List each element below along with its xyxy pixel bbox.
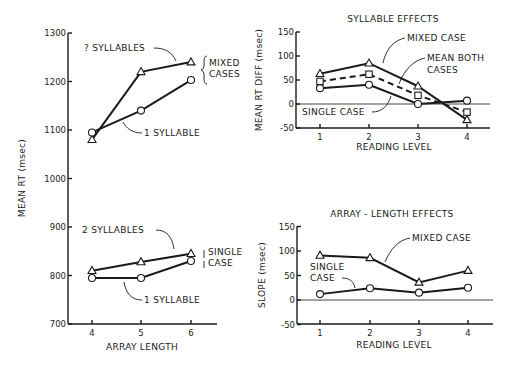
left-x-ticks: 456 xyxy=(89,320,193,338)
square-marker xyxy=(366,71,372,77)
label-mixed-cases-1: MIXED xyxy=(209,58,240,68)
triangle-marker xyxy=(463,116,471,123)
y-tick-label: 1000 xyxy=(44,174,66,184)
circle-marker xyxy=(317,85,324,92)
label-br-single-case-1: SINGLE xyxy=(310,262,345,272)
x-tick-label: 1 xyxy=(317,132,322,142)
x-tick-label: 4 xyxy=(89,328,94,338)
y-tick-label: -50 xyxy=(280,123,294,133)
series-2-syllables xyxy=(88,249,195,273)
y-tick-label: 50 xyxy=(283,75,294,85)
x-tick-label: 4 xyxy=(465,328,470,338)
y-tick-label: 100 xyxy=(278,51,294,61)
circle-marker xyxy=(464,97,471,104)
syllable-effects-chart: SYLLABLE EFFECTS -50050100150 1234 MEAN … xyxy=(254,14,490,152)
series-single-case xyxy=(317,284,472,297)
br-x-ticks: 1234 xyxy=(317,320,470,338)
tr-x-axis-label: READING LEVEL xyxy=(356,142,432,152)
circle-marker xyxy=(366,81,373,88)
label-single-1-syllable: 1 SYLLABLE xyxy=(144,295,200,305)
label-br-single-case-2: CASE xyxy=(310,273,335,283)
y-tick-label: 50 xyxy=(284,271,295,281)
x-tick-label: 5 xyxy=(138,328,143,338)
label-br-mixed-case: MIXED CASE xyxy=(412,233,471,243)
circle-marker xyxy=(415,101,422,108)
circle-marker xyxy=(367,285,374,292)
series-line xyxy=(320,288,468,294)
y-tick-label: 700 xyxy=(50,319,66,329)
triangle-marker xyxy=(187,58,195,65)
figure: 7008009001000110012001300 456 MEAN RT (m… xyxy=(0,0,513,365)
circle-marker xyxy=(188,77,195,84)
leader-br-mixed-case xyxy=(385,238,410,262)
square-marker xyxy=(317,78,323,84)
x-tick-label: 3 xyxy=(415,132,420,142)
series-line xyxy=(320,85,467,104)
x-tick-label: 4 xyxy=(464,132,469,142)
leader-br-single-case xyxy=(342,278,355,288)
label-single-case-1: SINGLE xyxy=(208,247,243,257)
leader-single-2-syllables xyxy=(156,230,174,249)
label-single-2-syllables: 2 SYLLABLES xyxy=(82,225,144,235)
syllable-effects-title: SYLLABLE EFFECTS xyxy=(347,14,438,24)
br-x-axis-label: READING LEVEL xyxy=(356,340,432,350)
brace-mixed-cases xyxy=(201,56,207,84)
triangle-marker xyxy=(365,59,373,66)
label-tr-mean-both-1: MEAN BOTH xyxy=(427,53,484,63)
y-tick-label: 0 xyxy=(290,295,295,305)
y-tick-label: 1200 xyxy=(44,77,66,87)
leader-single-1-syllable xyxy=(124,282,142,300)
label-single-case-2: CASE xyxy=(208,258,233,268)
y-tick-label: 0 xyxy=(289,99,294,109)
leader-mixed-2-syllables xyxy=(154,48,176,61)
mean-rt-chart: 7008009001000110012001300 456 MEAN RT (m… xyxy=(17,28,243,352)
y-tick-label: -50 xyxy=(281,320,295,330)
circle-marker xyxy=(138,107,145,114)
tr-x-ticks: 1234 xyxy=(317,124,469,142)
left-y-axis-label: MEAN RT (msec) xyxy=(17,139,27,217)
y-tick-label: 1100 xyxy=(44,125,66,135)
leader-tr-mixed-case xyxy=(383,38,405,63)
series-line xyxy=(92,80,191,132)
br-y-axis-label: SLOPE (msec) xyxy=(257,242,267,308)
label-mixed-2-syllables: ? SYLLABLES xyxy=(84,43,145,53)
left-series xyxy=(88,58,195,282)
label-mixed-cases-2: CASES xyxy=(209,69,240,79)
x-tick-label: 3 xyxy=(416,328,421,338)
circle-marker xyxy=(416,289,423,296)
label-mixed-1-syllable: 1 SYLLABLE xyxy=(144,128,200,138)
x-tick-label: 2 xyxy=(366,132,371,142)
label-tr-mean-both-2: CASES xyxy=(427,65,458,75)
triangle-marker xyxy=(187,249,195,256)
leader-mixed-1-syllable xyxy=(123,122,142,133)
series-single-case xyxy=(317,81,471,107)
array-length-effects-chart: ARRAY - LENGTH EFFECTS -50050100150 1234… xyxy=(257,209,493,350)
br-series xyxy=(316,251,472,297)
y-tick-label: 100 xyxy=(279,246,295,256)
y-tick-label: 150 xyxy=(278,27,294,37)
left-x-axis-label: ARRAY LENGTH xyxy=(106,342,178,352)
label-tr-mixed-case: MIXED CASE xyxy=(407,33,466,43)
tr-y-axis-label: MEAN RT DIFF (msec) xyxy=(254,29,264,132)
triangle-marker xyxy=(464,266,472,273)
circle-marker xyxy=(89,129,96,136)
x-tick-label: 2 xyxy=(367,328,372,338)
square-marker xyxy=(415,92,421,98)
array-length-effects-title: ARRAY - LENGTH EFFECTS xyxy=(330,209,453,219)
x-tick-label: 6 xyxy=(188,328,193,338)
circle-marker xyxy=(188,257,195,264)
circle-marker xyxy=(465,284,472,291)
circle-marker xyxy=(138,274,145,281)
label-tr-single-case: SINGLE CASE xyxy=(302,107,365,117)
y-tick-label: 800 xyxy=(50,271,66,281)
y-tick-label: 150 xyxy=(279,222,295,232)
square-marker xyxy=(464,109,470,115)
y-tick-label: 900 xyxy=(50,222,66,232)
x-tick-label: 1 xyxy=(317,328,322,338)
y-tick-label: 1300 xyxy=(44,28,66,38)
circle-marker xyxy=(317,291,324,298)
circle-marker xyxy=(89,274,96,281)
